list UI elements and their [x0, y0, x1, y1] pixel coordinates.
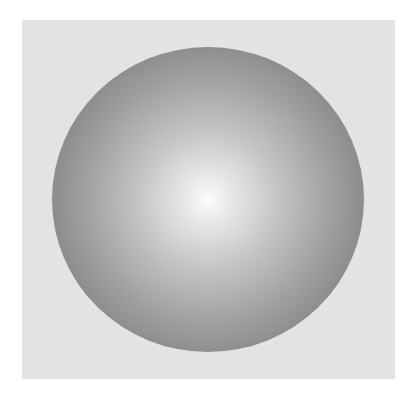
shaded-sphere: [52, 47, 364, 352]
